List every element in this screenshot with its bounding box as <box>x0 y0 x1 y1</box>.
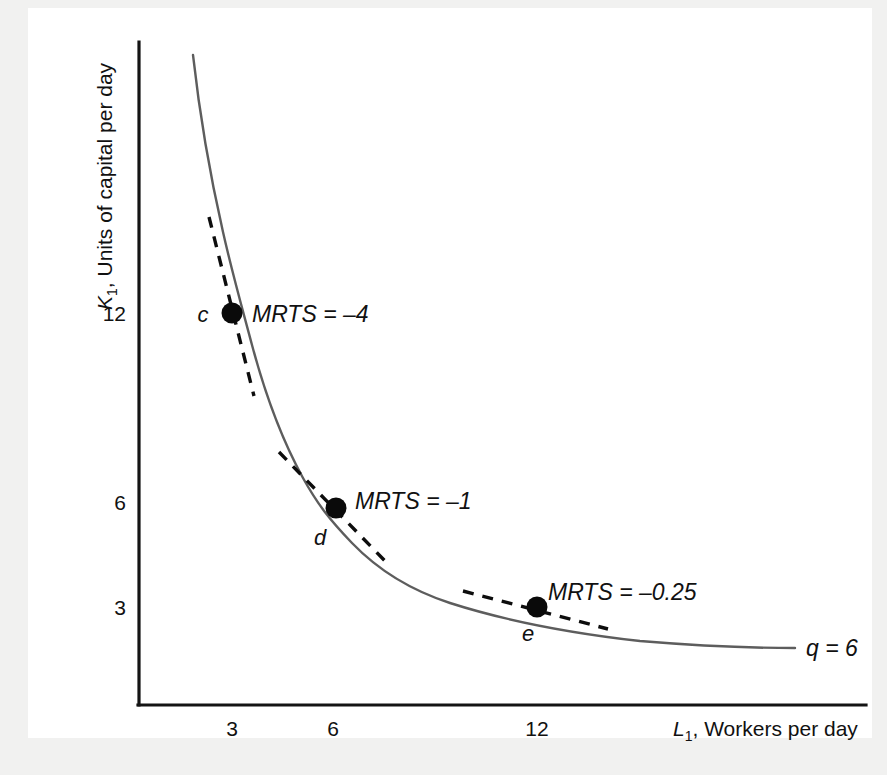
y-axis-title-symbol: K <box>93 295 116 310</box>
x-axis-title-rest: , Workers per day <box>692 717 858 740</box>
x-axis-title-subscript: 1 <box>685 728 693 744</box>
y-tick-label-6: 6 <box>114 491 126 514</box>
y-axis-title: K1, Units of capital per day <box>93 62 120 310</box>
point-label-d: d <box>314 525 327 550</box>
y-tick-label-3: 3 <box>114 596 126 619</box>
data-point-e <box>527 597 548 618</box>
x-tick-label-12: 12 <box>525 717 548 740</box>
x-axis-title-symbol: L <box>673 717 685 740</box>
x-axis-title: L1, Workers per day <box>673 717 858 744</box>
isoquant-chart: c d e MRTS = –4 MRTS = –1 MRTS = –0.25 q… <box>0 0 887 775</box>
curve-label-q: q = 6 <box>806 635 858 661</box>
isoquant-curve <box>193 55 795 648</box>
y-axis-title-subscript: 1 <box>104 288 120 296</box>
figure-root: c d e MRTS = –4 MRTS = –1 MRTS = –0.25 q… <box>0 0 887 775</box>
data-point-c <box>222 303 243 324</box>
mrts-annotation-e: MRTS = –0.25 <box>548 579 697 605</box>
data-point-d <box>326 498 347 519</box>
point-label-c: c <box>198 302 209 327</box>
x-tick-label-3: 3 <box>226 717 238 740</box>
y-axis-title-rest: , Units of capital per day <box>93 62 116 288</box>
mrts-annotation-c: MRTS = –4 <box>252 301 369 327</box>
x-tick-label-6: 6 <box>327 717 339 740</box>
point-label-e: e <box>522 621 534 646</box>
mrts-annotation-d: MRTS = –1 <box>355 488 472 514</box>
